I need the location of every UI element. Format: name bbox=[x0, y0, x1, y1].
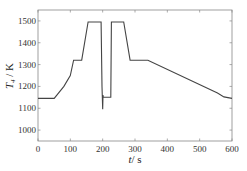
tick-labels: 0100200300400500600100011001200130014001… bbox=[18, 16, 239, 154]
plot-border bbox=[38, 10, 232, 141]
y-tick-label: 1400 bbox=[18, 38, 37, 48]
x-tick-label: 0 bbox=[36, 144, 41, 154]
y-tick-label: 1300 bbox=[18, 60, 37, 70]
series-line bbox=[38, 22, 232, 109]
x-axis-label: t/ s bbox=[128, 153, 141, 165]
x-tick-label: 100 bbox=[64, 144, 78, 154]
data-series bbox=[38, 22, 232, 109]
axis-ticks bbox=[38, 10, 232, 141]
y-tick-label: 1000 bbox=[18, 125, 37, 135]
x-tick-label: 600 bbox=[225, 144, 239, 154]
line-chart: 0100200300400500600100011001200130014001… bbox=[0, 0, 247, 171]
x-tick-label: 200 bbox=[96, 144, 110, 154]
x-tick-label: 400 bbox=[161, 144, 175, 154]
y-tick-label: 1200 bbox=[18, 81, 37, 91]
x-tick-label: 500 bbox=[193, 144, 207, 154]
plot-frame bbox=[38, 10, 232, 141]
y-axis-label: T4 / K bbox=[3, 63, 17, 89]
y-tick-label: 1500 bbox=[18, 16, 37, 26]
y-tick-label: 1100 bbox=[18, 103, 36, 113]
